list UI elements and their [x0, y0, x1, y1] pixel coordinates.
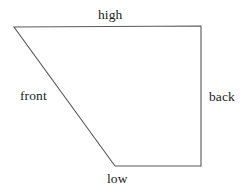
edge-label-low: low — [107, 172, 128, 186]
edge-label-back: back — [209, 90, 235, 104]
diagram-canvas: high front back low — [0, 0, 252, 194]
edge-label-front: front — [20, 89, 47, 103]
edge-label-high: high — [98, 8, 122, 22]
